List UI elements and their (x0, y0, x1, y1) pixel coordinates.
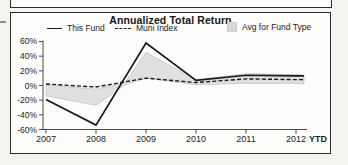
y-tick-label: 40% (20, 51, 37, 61)
x-tick-label: 2011 (236, 134, 255, 144)
x-tick-label: 2007 (36, 134, 56, 144)
y-tick-label: -20% (17, 95, 37, 105)
x-tick-label: 2009 (136, 134, 156, 144)
y-tick-label: 20% (20, 66, 37, 76)
x-axis-suffix-ytd: YTD (309, 134, 328, 144)
x-tick-label: 2010 (186, 134, 206, 144)
y-tick-label: 0% (25, 81, 38, 91)
y-tick-label: -40% (17, 110, 37, 120)
plot-area: 60%40%20%0%-20%-40%-60%20072008200920102… (11, 13, 328, 151)
y-tick-label: -60% (17, 125, 37, 135)
y-tick-label: 60% (20, 36, 37, 46)
x-tick-label: 2008 (86, 134, 106, 144)
cropped-left-mark (0, 21, 6, 23)
partial-box-above (10, 0, 332, 8)
x-tick-label: 2012 (286, 134, 306, 144)
series-line-this-fund (46, 43, 304, 125)
annualized-total-return-panel: Annualized Total Return This Fund Muni I… (10, 12, 331, 154)
